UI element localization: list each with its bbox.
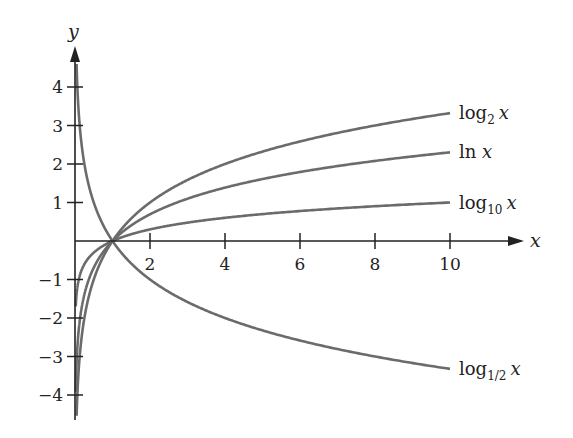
y-tick-label: −3	[38, 347, 63, 367]
curves-group	[76, 64, 450, 416]
y-tick-label: 1	[52, 193, 63, 213]
x-tick-label: 6	[295, 254, 306, 274]
curve-label-2: log10x	[459, 192, 517, 217]
y-tick-label: −4	[38, 385, 63, 405]
y-tick-label: −1	[38, 270, 63, 290]
curve-label-3: log1/2x	[459, 358, 521, 383]
x-tick-label: 2	[145, 254, 156, 274]
y-tick-label: 2	[52, 154, 63, 174]
curve-1	[76, 152, 450, 391]
x-tick-label: 8	[370, 254, 381, 274]
y-tick-label: −2	[38, 308, 63, 328]
x-tick-label: 4	[220, 254, 231, 274]
curve-label-0: log2x	[459, 102, 509, 127]
x-axis-arrow-icon	[508, 236, 524, 246]
y-axis-label: y	[67, 20, 79, 42]
y-tick-label: 4	[52, 77, 63, 97]
x-axis-label: x	[530, 229, 541, 251]
curve-label-1: ln x	[459, 141, 492, 162]
y-tick-label: 3	[52, 116, 63, 136]
y-axis-arrow-icon	[70, 46, 80, 62]
x-tick-label: 10	[439, 254, 461, 274]
log-functions-chart: 246810−4−3−2−11234 x y log2xln xlog10xlo…	[0, 0, 573, 438]
